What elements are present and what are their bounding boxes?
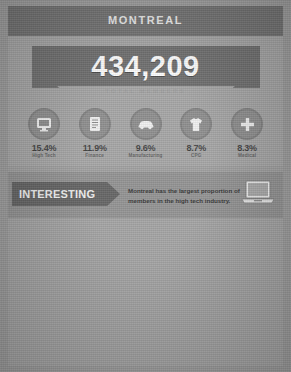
total-members-value: 434,209	[8, 50, 283, 83]
tshirt-icon	[180, 108, 212, 140]
industry-label: Medical	[223, 153, 271, 158]
industry-item-manufacturing: 9.6% Manufacturing	[122, 108, 170, 158]
job-function-chart: Job Function Sales (9%)Entrepreneurship …	[10, 222, 152, 364]
industry-pct: 11.9%	[71, 143, 119, 153]
industry-item-high-tech: 15.4% High Tech	[20, 108, 68, 158]
industry-label: High Tech	[20, 153, 68, 158]
monitor-icon	[28, 108, 60, 140]
callout-tag-label: INTERESTING	[12, 188, 95, 200]
industry-label: Finance	[71, 153, 119, 158]
page-title: MONTREAL	[8, 14, 283, 26]
industry-item-cpg: 8.7% CPG	[172, 108, 220, 158]
company-size-chart: Company Size % of Montreal LinkedIn Memb…	[152, 222, 284, 364]
industry-item-finance: 11.9% Finance	[71, 108, 119, 158]
industry-pct: 15.4%	[20, 143, 68, 153]
industry-label: Manufacturing	[122, 153, 170, 158]
industry-item-medical: 8.3% Medical	[223, 108, 271, 158]
laptop-icon	[241, 180, 275, 210]
infographic-poster: MONTREAL 434,209 TOTAL MEMBERS 15.4% Hig…	[0, 0, 291, 372]
total-members-label: TOTAL MEMBERS	[8, 88, 283, 94]
industry-label: CPG	[172, 153, 220, 158]
medical-cross-icon	[231, 108, 263, 140]
car-icon	[130, 108, 162, 140]
industry-pct: 9.6%	[122, 143, 170, 153]
industry-pct: 8.7%	[172, 143, 220, 153]
industry-stats-row: 15.4% High Tech 11.9% Finance 9.6% Manuf…	[8, 104, 283, 166]
industry-pct: 8.3%	[223, 143, 271, 153]
document-icon	[79, 108, 111, 140]
callout-tag: INTERESTING	[12, 182, 120, 206]
callout-text: Montreal has the largest proportion of m…	[128, 186, 242, 205]
